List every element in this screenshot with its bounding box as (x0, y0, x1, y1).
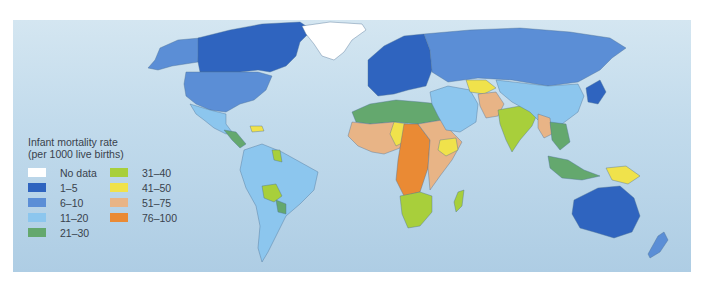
region-southern-africa (400, 192, 432, 228)
region-greenland (302, 22, 366, 60)
legend-swatch (28, 183, 46, 192)
legend-label: 6–10 (60, 197, 83, 209)
map-legend: Infant mortality rate (per 1000 live bir… (28, 136, 228, 239)
legend-label: 1–5 (60, 182, 78, 194)
region-madagascar (454, 190, 464, 212)
region-indonesia (548, 156, 600, 180)
legend-swatch (28, 213, 46, 222)
legend-title-line1: Infant mortality rate (28, 136, 228, 148)
region-central-asia (466, 80, 496, 94)
legend-item-21-30: 21–30 (28, 226, 110, 239)
legend-item-31-40: 31–40 (110, 166, 210, 179)
legend-label: 21–30 (60, 227, 89, 239)
legend-label: No data (60, 167, 97, 179)
legend-item-76-100: 76–100 (110, 211, 210, 224)
region-russia (424, 28, 626, 86)
legend-item-11-20: 11–20 (28, 211, 110, 224)
legend-item-6-10: 6–10 (28, 196, 110, 209)
legend-item-no-data: No data (28, 166, 110, 179)
legend-title-line2: (per 1000 live births) (28, 148, 228, 160)
region-australia (572, 186, 640, 238)
region-japan-korea (586, 80, 606, 104)
legend-item-51-75: 51–75 (110, 196, 210, 209)
region-caribbean (250, 126, 264, 132)
legend-swatch (28, 228, 46, 237)
legend-label: 51–75 (142, 197, 171, 209)
region-north-africa (352, 100, 442, 124)
region-papua (606, 166, 640, 184)
map-frame: Infant mortality rate (per 1000 live bir… (13, 20, 691, 272)
legend-swatch (110, 198, 128, 207)
region-europe (368, 34, 432, 96)
region-canada (198, 22, 312, 72)
legend-item-1-5: 1–5 (28, 181, 110, 194)
legend-label: 11–20 (60, 212, 88, 224)
legend-grid: No data 1–5 6–10 11–20 21–30 31–40 (28, 166, 228, 239)
legend-label: 31–40 (142, 167, 171, 179)
legend-swatch (28, 198, 46, 207)
legend-swatch (28, 168, 46, 177)
legend-swatch (110, 168, 128, 177)
legend-label: 41–50 (142, 182, 171, 194)
region-southeast-asia (550, 122, 570, 150)
region-new-zealand (648, 232, 668, 258)
legend-item-41-50: 41–50 (110, 181, 210, 194)
legend-swatch (110, 213, 128, 222)
legend-swatch (110, 183, 128, 192)
legend-label: 76–100 (142, 212, 177, 224)
region-alaska (148, 38, 200, 70)
